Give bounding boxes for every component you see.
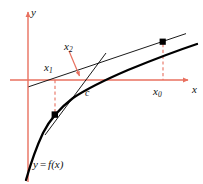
curve-point-x0 [160,39,166,45]
x-axis-label: x [192,84,197,95]
function-label: y=f(x) [33,159,63,170]
root-c-label: c [85,88,89,98]
x2-label: x2 [64,41,73,53]
curve-point-x1 [52,111,58,117]
x0-label: x0 [153,86,162,98]
figure-canvas [0,0,203,184]
newtons-method-figure: y x x0 x1 x2 c y=f(x) [0,0,203,184]
y-axis-label: y [31,7,36,18]
x1-label: x1 [44,62,53,74]
